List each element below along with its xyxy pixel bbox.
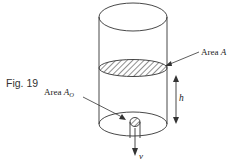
tank-diagram: Fig. 19 Area A Area AO h v <box>0 0 236 166</box>
height-arrow-top <box>173 75 179 82</box>
velocity-label: v <box>139 151 143 161</box>
height-arrow-bottom <box>173 117 179 124</box>
area-a-leader <box>170 52 199 64</box>
outlet-hole-area-ao <box>130 118 140 127</box>
figure-caption: Fig. 19 <box>6 77 38 89</box>
area-ao-leader <box>83 97 122 117</box>
area-a-label: Area A <box>201 47 227 57</box>
cylinder-top <box>99 3 167 31</box>
area-a-arrowhead <box>165 61 172 66</box>
velocity-arrow-head <box>132 148 138 156</box>
area-ao-arrowhead <box>119 114 126 120</box>
area-ao-label: Area AO <box>44 87 74 98</box>
height-label: h <box>179 93 184 103</box>
water-surface-area-a <box>99 60 167 77</box>
